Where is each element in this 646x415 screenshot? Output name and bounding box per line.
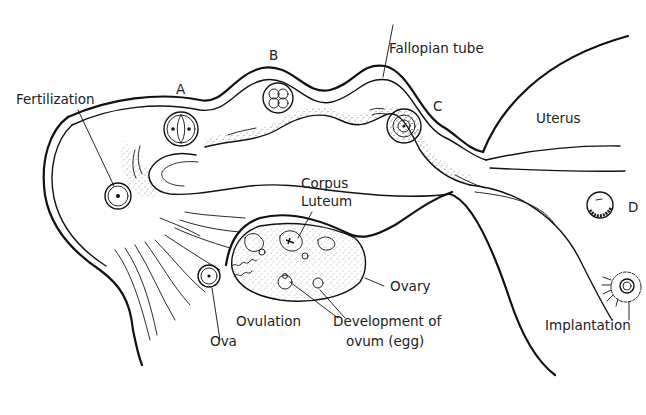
label-fertilization: Fertilization — [16, 91, 95, 107]
label-stage-d: D — [628, 199, 638, 215]
cell-stage-d — [587, 192, 613, 218]
cell-stage-a — [164, 112, 198, 146]
cell-ova — [198, 265, 220, 287]
label-stage-c: C — [433, 98, 442, 114]
cell-fertilization — [105, 183, 131, 209]
label-implantation: Implantation — [545, 317, 631, 333]
labels: Fertilization A B Fallopian tube C Uteru… — [16, 40, 638, 349]
label-ovulation: Ovulation — [236, 313, 301, 329]
cell-implantation — [602, 272, 641, 306]
label-stage-b: B — [269, 47, 278, 63]
cell-stage-b — [263, 83, 293, 113]
label-stage-a: A — [176, 81, 186, 97]
label-development-line1: Development of — [333, 313, 442, 329]
fallopian-tube — [68, 66, 486, 199]
label-development-line2: ovum (egg) — [346, 333, 424, 349]
label-fallopian-tube: Fallopian tube — [389, 40, 484, 56]
label-ova: Ova — [210, 333, 237, 349]
infundibulum — [44, 117, 245, 365]
label-corpus-line1: Corpus — [301, 175, 348, 191]
label-ovary: Ovary — [390, 278, 430, 294]
label-corpus-line2: Luteum — [301, 193, 352, 209]
reproduction-diagram: Fertilization A B Fallopian tube C Uteru… — [0, 0, 646, 415]
cell-stage-c — [387, 109, 421, 143]
label-uterus: Uterus — [536, 110, 581, 126]
